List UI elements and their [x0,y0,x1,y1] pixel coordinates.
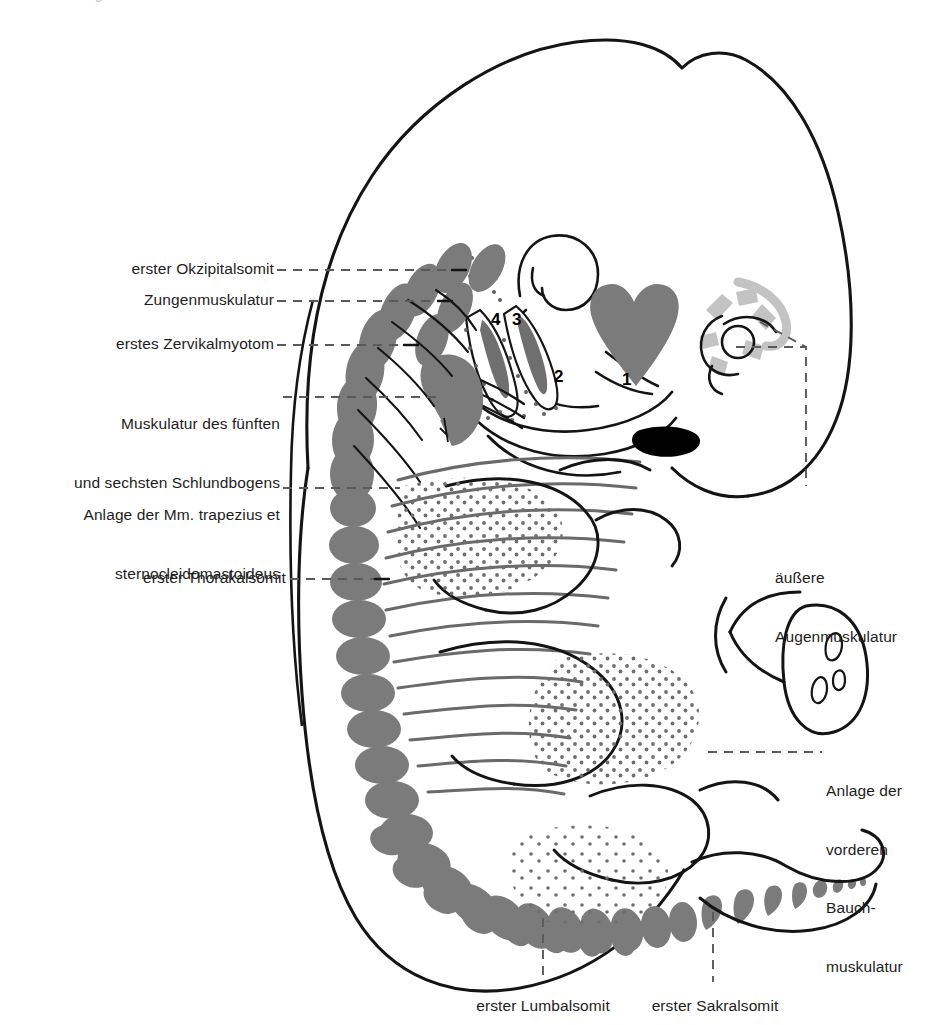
label-bauch-line1: Anlage der [826,781,943,801]
label-zungenmuskulatur: Zungenmuskulatur [40,290,274,310]
label-bauch-line3: Bauch- [826,898,943,918]
label-bauch-line2: vorderen [826,840,943,860]
label-erstes-zervikalmyotom: erstes Zervikalmyotom [40,334,274,354]
arch-number-3: 3 [512,310,521,330]
label-schlundbogen-line1: Muskulatur des fünften [10,414,280,434]
label-bauch-line4: muskulatur [826,957,943,977]
arch-number-4: 4 [491,310,500,330]
label-erster-sakralsomit: erster Sakralsomit [600,996,830,1016]
label-trapezius-line1: Anlage der Mm. trapezius et [4,505,280,525]
label-vordere-bauchmuskulatur: Anlage der vorderen Bauch- muskulatur [826,742,943,1015]
label-erster-thorakalsomit: erster Thorakalsomit [40,568,286,588]
label-augenmuskulatur-line1: äußere [775,568,943,588]
mandibular-black-mass [632,427,700,457]
label-erster-okzipitalsomit: erster Okzipitalsomit [40,259,274,279]
leader-augenmuskulatur [736,347,806,486]
tongue-musculature-mass [590,284,679,386]
arch-number-2: 2 [554,367,563,387]
figure-canvas: J [0,0,943,1025]
label-augenmuskulatur-line2: Augenmuskulatur [775,627,943,647]
label-trapezius-sternocleidomastoideus: Anlage der Mm. trapezius et sternocleido… [4,466,280,622]
embryo-outline [307,40,851,497]
arch-number-1: 1 [622,370,631,390]
label-aeussere-augenmuskulatur: äußere Augenmuskulatur [775,529,943,685]
